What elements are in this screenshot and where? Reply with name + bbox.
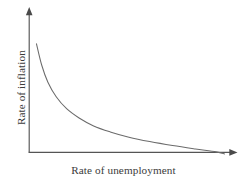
phillips-curve-line	[36, 44, 224, 154]
chart-canvas	[0, 0, 247, 185]
x-axis-arrowhead	[229, 149, 237, 156]
y-axis-arrowhead	[26, 7, 33, 15]
x-axis-label: Rate of unemployment	[0, 165, 247, 176]
y-axis-label: Rate of inflation	[16, 18, 27, 158]
phillips-curve-figure: Rate of inflation Rate of unemployment	[0, 0, 247, 185]
